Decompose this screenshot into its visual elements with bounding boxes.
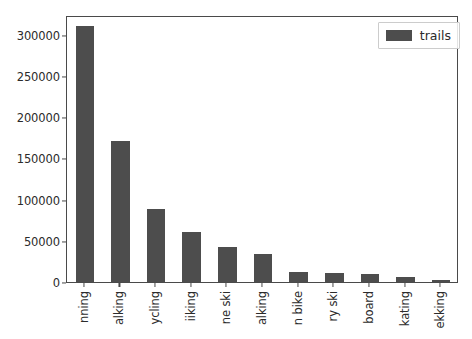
x-tick-label: board (362, 291, 376, 324)
x-tick-mark (297, 283, 298, 287)
x-tick-mark (261, 283, 262, 287)
bar (254, 254, 273, 282)
bar (325, 273, 344, 282)
y-tick-mark (62, 118, 66, 119)
y-tick-label: 300000 (17, 29, 60, 43)
bar (182, 232, 201, 282)
legend-swatch-trails (386, 30, 412, 41)
x-tick-label: kating (398, 291, 412, 326)
x-tick-label: alking (255, 291, 269, 325)
x-tick-label: ycling (148, 291, 162, 325)
x-tick-label: nning (77, 291, 91, 323)
bar (76, 26, 95, 282)
x-tick-label: ekking (433, 291, 447, 329)
x-tick-mark (404, 283, 405, 287)
chart-legend: trails (378, 22, 460, 49)
bar (396, 277, 415, 282)
y-tick-label: 150000 (17, 152, 60, 166)
plot-area (66, 16, 458, 283)
x-tick-label: n bike (291, 291, 305, 325)
bar (147, 209, 166, 282)
y-tick-mark (62, 241, 66, 242)
x-tick-mark (440, 283, 441, 287)
y-axis: 050000100000150000200000250000300000 (0, 16, 60, 283)
y-tick-label: 0 (53, 276, 60, 290)
x-tick-label: alking (112, 291, 126, 325)
y-tick-label: 200000 (17, 111, 60, 125)
y-tick-mark (62, 200, 66, 201)
y-tick-mark (62, 35, 66, 36)
bar (361, 274, 380, 282)
bar (289, 272, 308, 282)
x-tick-mark (190, 283, 191, 287)
matplotlib-figure: 050000100000150000200000250000300000 nni… (0, 0, 472, 339)
y-tick-label: 100000 (17, 194, 60, 208)
y-tick-mark (62, 159, 66, 160)
x-tick-label: ne ski (219, 291, 233, 324)
y-tick-label: 250000 (17, 70, 60, 84)
bar (111, 141, 130, 282)
x-tick-mark (333, 283, 334, 287)
y-tick-label: 50000 (24, 235, 60, 249)
x-tick-label: iiking (184, 291, 198, 321)
legend-label-trails: trails (420, 28, 451, 43)
y-tick-mark (62, 76, 66, 77)
bar (432, 280, 451, 282)
x-tick-mark (119, 283, 120, 287)
x-tick-label: ry ski (326, 291, 340, 321)
x-tick-mark (83, 283, 84, 287)
x-tick-mark (368, 283, 369, 287)
y-tick-mark (62, 282, 66, 283)
x-tick-mark (226, 283, 227, 287)
bar (218, 247, 237, 282)
x-tick-mark (155, 283, 156, 287)
